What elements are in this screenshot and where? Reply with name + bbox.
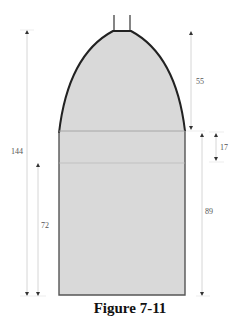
dimension-89: 89 (196, 133, 213, 296)
dimension-label-55: 55 (196, 77, 204, 86)
dimension-72: 72 (36, 163, 49, 296)
dimension-label-17: 17 (220, 143, 228, 152)
stem (114, 15, 130, 31)
dimension-label-72: 72 (41, 221, 49, 230)
dimension-144: 144 (10, 30, 46, 296)
dimension-17: 17 (209, 132, 228, 162)
figure-caption: Figure 7-11 (0, 300, 244, 317)
dimension-label-144: 144 (11, 147, 23, 156)
dimension-55: 55 (186, 31, 205, 131)
dimension-label-89: 89 (205, 207, 213, 216)
figure-diagram: 144 72 55 17 89 (0, 0, 244, 322)
